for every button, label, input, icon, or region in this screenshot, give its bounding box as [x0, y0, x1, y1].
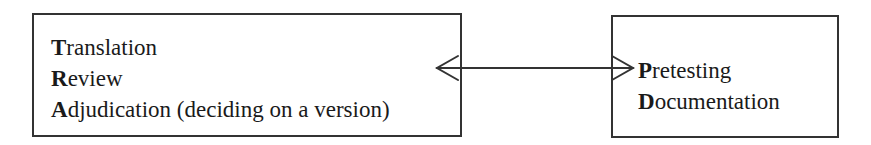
bidirectional-arrow-icon: [0, 0, 871, 145]
